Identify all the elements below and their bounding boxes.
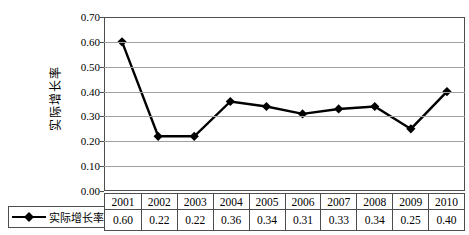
year-cell: 2003 xyxy=(177,194,213,210)
growth-rate-chart: 实际增长率 2001200220032004200520062007200820… xyxy=(0,0,469,235)
year-cell: 2009 xyxy=(392,194,428,210)
data-point-marker xyxy=(298,109,307,118)
y-axis-tickmark xyxy=(100,116,104,117)
y-axis-tickmark xyxy=(100,67,104,68)
value-cell: 0.34 xyxy=(356,210,392,230)
y-tick-label: 0.30 xyxy=(58,110,100,122)
value-cell: 0.25 xyxy=(392,210,428,230)
y-axis-tickmark xyxy=(100,141,104,142)
gridline xyxy=(104,42,465,43)
line-series xyxy=(104,17,465,191)
data-point-marker xyxy=(334,104,343,113)
value-cell: 0.36 xyxy=(213,210,249,230)
y-tick-label: 0.10 xyxy=(58,160,100,172)
legend: 实际增长率 xyxy=(8,206,105,228)
gridline xyxy=(104,141,465,142)
value-cell: 0.31 xyxy=(285,210,321,230)
gridline xyxy=(104,67,465,68)
gridline xyxy=(104,166,465,167)
value-cell: 0.22 xyxy=(141,210,177,230)
value-cell: 0.22 xyxy=(177,210,213,230)
y-axis-tickmark xyxy=(100,166,104,167)
value-cell: 0.60 xyxy=(105,210,141,230)
data-point-marker xyxy=(154,132,163,141)
legend-label: 实际增长率 xyxy=(49,209,104,225)
y-axis-tickmark xyxy=(100,92,104,93)
y-tick-label: 0.40 xyxy=(58,86,100,98)
year-cell: 2004 xyxy=(213,194,249,210)
gridline xyxy=(104,116,465,117)
data-point-marker xyxy=(262,102,271,111)
y-tick-label: 0.20 xyxy=(58,135,100,147)
value-cell: 0.33 xyxy=(320,210,356,230)
year-cell: 2008 xyxy=(356,194,392,210)
y-tick-label: 0.50 xyxy=(58,61,100,73)
value-cell: 0.34 xyxy=(249,210,285,230)
year-cell: 2006 xyxy=(285,194,321,210)
y-axis-tickmark xyxy=(100,42,104,43)
y-axis-tickmark xyxy=(100,17,104,18)
year-cell: 2002 xyxy=(141,194,177,210)
year-cell: 2007 xyxy=(320,194,356,210)
y-tick-label: 0.70 xyxy=(58,11,100,23)
data-table: 2001200220032004200520062007200820092010… xyxy=(104,193,465,231)
year-cell: 2001 xyxy=(105,194,141,210)
y-tick-label: 0.00 xyxy=(58,185,100,197)
series-line xyxy=(122,42,447,136)
y-axis-tickmark xyxy=(100,191,104,192)
y-tick-label: 0.60 xyxy=(58,36,100,48)
year-cell: 2010 xyxy=(428,194,464,210)
year-cell: 2005 xyxy=(249,194,285,210)
value-cell: 0.40 xyxy=(428,210,464,230)
legend-marker-icon xyxy=(11,212,47,222)
gridline xyxy=(104,92,465,93)
